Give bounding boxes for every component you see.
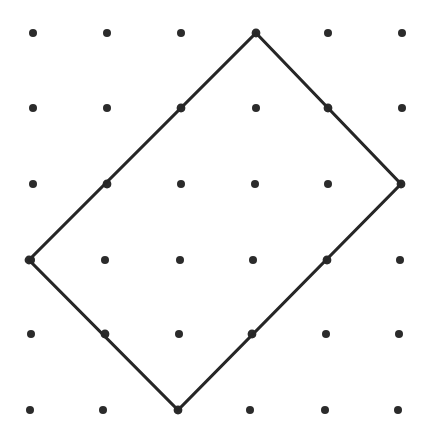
- canvas-background: [0, 0, 422, 439]
- lattice-dot: [395, 330, 403, 338]
- lattice-dot: [398, 104, 406, 112]
- lattice-dot: [176, 256, 184, 264]
- lattice-dot: [26, 406, 34, 414]
- lattice-dot: [251, 180, 259, 188]
- lattice-dot: [29, 29, 37, 37]
- lattice-canvas: [0, 0, 422, 439]
- lattice-dot: [246, 406, 254, 414]
- lattice-dot: [249, 256, 257, 264]
- lattice-dot: [29, 180, 37, 188]
- lattice-dot: [103, 104, 111, 112]
- lattice-dot: [321, 406, 329, 414]
- lattice-dot: [322, 330, 330, 338]
- lattice-dot: [324, 180, 332, 188]
- lattice-dot: [252, 104, 260, 112]
- lattice-dot: [324, 29, 332, 37]
- lattice-dot: [101, 256, 109, 264]
- lattice-dot: [394, 406, 402, 414]
- lattice-dot: [396, 256, 404, 264]
- lattice-dot: [177, 180, 185, 188]
- lattice-dot: [175, 330, 183, 338]
- lattice-dot: [27, 330, 35, 338]
- lattice-dot: [103, 29, 111, 37]
- lattice-dot: [177, 29, 185, 37]
- geoboard-figure: [0, 0, 422, 439]
- lattice-dot: [99, 406, 107, 414]
- lattice-dot: [398, 29, 406, 37]
- lattice-dot: [29, 104, 37, 112]
